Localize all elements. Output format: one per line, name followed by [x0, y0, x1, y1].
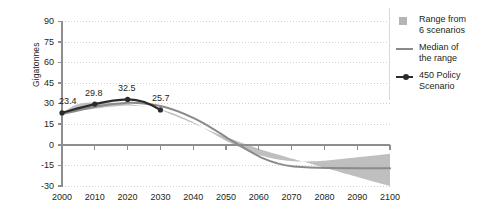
data-point-label: 23.4: [59, 96, 77, 106]
y-tick-label: 0: [30, 140, 54, 150]
legend-label-range-line2: 6 scenarios: [419, 25, 466, 36]
legend-item-policy[interactable]: 450 Policy Scenario: [396, 70, 484, 91]
x-tick-label: 2060: [242, 192, 276, 202]
y-tick-label: -15: [30, 160, 54, 170]
data-point-label: 29.8: [85, 88, 103, 98]
legend-label-policy: 450 Policy Scenario: [419, 70, 461, 91]
legend-label-median: Median of the range: [419, 42, 459, 63]
y-tick-label: 60: [30, 57, 54, 67]
y-tick-label: 75: [30, 37, 54, 47]
median-line: [62, 103, 390, 169]
legend-label-range-line1: Range from: [419, 14, 466, 25]
legend-label-range: Range from 6 scenarios: [419, 14, 466, 35]
legend-divider: [389, 8, 390, 100]
range-band: [62, 102, 390, 186]
legend-item-median[interactable]: Median of the range: [396, 42, 484, 63]
y-tick-label: 15: [30, 119, 54, 129]
x-tick-label: 2090: [340, 192, 374, 202]
x-tick-label: 2070: [275, 192, 309, 202]
y-tick-label: 30: [30, 98, 54, 108]
legend-label-policy-line2: Scenario: [419, 81, 461, 92]
policy-line-marker-icon: [396, 71, 414, 83]
x-tick-label: 2100: [373, 192, 407, 202]
x-tick-label: 2010: [78, 192, 112, 202]
range-swatch-icon: [396, 15, 414, 27]
data-point-label: 32.5: [118, 83, 136, 93]
x-tick-label: 2030: [143, 192, 177, 202]
x-tick-label: 2020: [111, 192, 145, 202]
x-tick-label: 2080: [307, 192, 341, 202]
emissions-range-chart: Gigatonnes: [0, 0, 485, 218]
x-tick-label: 2050: [209, 192, 243, 202]
y-tick-label: -30: [30, 181, 54, 191]
legend-label-policy-line1: 450 Policy: [419, 70, 461, 81]
x-tick-label: 2000: [45, 192, 79, 202]
y-tick-label: 90: [30, 16, 54, 26]
legend-label-median-line2: the range: [419, 53, 459, 64]
median-line-icon: [396, 43, 414, 55]
y-tick-label: 45: [30, 78, 54, 88]
chart-legend: Range from 6 scenarios Median of the ran…: [396, 14, 484, 98]
data-point-label: 25.7: [152, 93, 170, 103]
x-tick-label: 2040: [176, 192, 210, 202]
x-tick-marks: [62, 145, 390, 150]
legend-label-median-line1: Median of: [419, 42, 459, 53]
legend-item-range[interactable]: Range from 6 scenarios: [396, 14, 484, 35]
